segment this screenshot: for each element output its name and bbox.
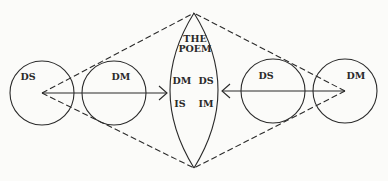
poem-diagram: DS DM THE POEM DM DS IS IM DS DM xyxy=(0,0,388,181)
poem-cell-top-left: DM xyxy=(173,76,192,86)
poem-title-line2: POEM xyxy=(178,44,211,54)
poem-cell-bottom-left: IS xyxy=(174,99,185,109)
right-ds-label: DS xyxy=(258,71,273,81)
left-ds-label: DS xyxy=(20,72,35,82)
right-dm-label: DM xyxy=(347,71,366,81)
poem-cell-bottom-right: IM xyxy=(199,99,214,109)
diagram-graphics xyxy=(0,0,388,181)
poem-cell-top-right: DS xyxy=(198,76,213,86)
left-dm-label: DM xyxy=(112,72,131,82)
